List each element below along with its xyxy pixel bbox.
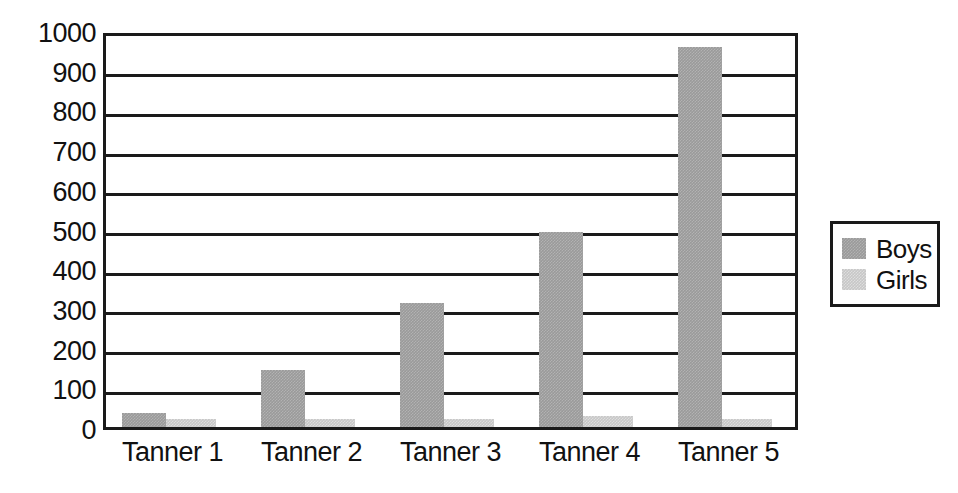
y-axis-tick-label: 0	[0, 417, 96, 444]
y-axis-tick-label: 300	[0, 297, 96, 324]
bar-group	[245, 36, 384, 427]
legend-swatch-icon	[842, 238, 866, 259]
y-axis-tick-label: 700	[0, 139, 96, 166]
bar-girls	[722, 419, 772, 427]
y-axis-tick-label: 400	[0, 258, 96, 285]
y-axis-tick-label: 500	[0, 218, 96, 245]
bars-layer	[106, 36, 795, 427]
x-axis-tick-labels: Tanner 1Tanner 2Tanner 3Tanner 4Tanner 5	[103, 437, 798, 481]
x-axis-tick-label: Tanner 1	[122, 437, 223, 467]
bar-group	[106, 36, 245, 427]
bar-boys	[539, 232, 583, 427]
chart-legend: BoysGirls	[830, 221, 940, 307]
bar-boys	[261, 370, 305, 427]
bar-boys	[678, 47, 722, 427]
y-axis-tick-label: 1000	[0, 20, 96, 47]
legend-label: Girls	[876, 267, 927, 293]
x-axis-tick-label: Tanner 3	[400, 437, 501, 467]
bar-group	[662, 36, 801, 427]
y-axis-tick-labels: 10009008007006005004003002001000	[0, 0, 96, 493]
y-axis-tick-label: 100	[0, 377, 96, 404]
y-axis-tick-label: 800	[0, 99, 96, 126]
y-axis-tick-label: 600	[0, 178, 96, 205]
plot-area	[103, 33, 798, 430]
x-axis-tick-label: Tanner 5	[678, 437, 779, 467]
bar-boys	[122, 413, 166, 427]
bar-group	[384, 36, 523, 427]
legend-swatch-icon	[842, 269, 866, 290]
bar-boys	[400, 303, 444, 427]
legend-entry: Boys	[842, 233, 929, 264]
bar-girls	[444, 419, 494, 427]
bar-chart: 10009008007006005004003002001000 Tanner …	[0, 0, 958, 493]
bar-girls	[166, 419, 216, 427]
x-axis-tick-label: Tanner 4	[539, 437, 640, 467]
legend-label: Boys	[876, 236, 932, 262]
x-axis-tick-label: Tanner 2	[261, 437, 362, 467]
y-axis-tick-label: 200	[0, 337, 96, 364]
legend-entry: Girls	[842, 264, 929, 295]
bar-girls	[305, 419, 355, 427]
bar-group	[523, 36, 662, 427]
y-axis-tick-label: 900	[0, 59, 96, 86]
bar-girls	[583, 416, 633, 427]
